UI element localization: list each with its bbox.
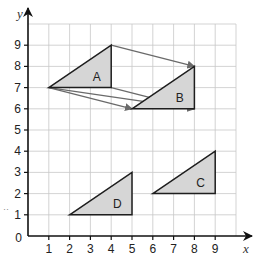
x-tick-label: 3 xyxy=(87,242,94,256)
x-tick-label: 1 xyxy=(45,242,52,256)
x-tick-label: 2 xyxy=(66,242,73,256)
y-tick-label: 6 xyxy=(14,102,21,116)
x-tick-label: 4 xyxy=(108,242,115,256)
triangle-label: C xyxy=(196,176,205,190)
triangle-label: D xyxy=(113,197,122,211)
y-tick-label: 5 xyxy=(14,123,21,137)
y-tick-label: 8 xyxy=(14,59,21,73)
x-axis-label: x xyxy=(242,241,249,256)
y-tick-label: 3 xyxy=(14,165,21,179)
x-tick-label: 7 xyxy=(170,242,177,256)
triangle-label: B xyxy=(176,91,184,105)
x-tick-label: 8 xyxy=(191,242,198,256)
y-tick-label: 7 xyxy=(14,81,21,95)
y-tick-label: 4 xyxy=(14,144,21,158)
origin-label: 0 xyxy=(15,231,22,245)
x-tick-label: 6 xyxy=(149,242,156,256)
y-tick-label: 2 xyxy=(14,187,21,201)
x-tick-label: 9 xyxy=(212,242,219,256)
x-tick-label: 5 xyxy=(129,242,136,256)
y-axis-label: y xyxy=(15,6,23,21)
stray-mark: ·· xyxy=(3,204,9,214)
y-tick-label: 9 xyxy=(14,38,21,52)
y-tick-label: 1 xyxy=(14,208,21,222)
axes: 1234567891234567890xy xyxy=(14,6,252,256)
triangle-label: A xyxy=(93,70,101,84)
coordinate-grid-figure: ABCD 1234567891234567890xy ·· xyxy=(0,0,256,263)
